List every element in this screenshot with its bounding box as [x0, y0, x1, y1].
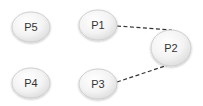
edge-p1-p2: [117, 26, 172, 30]
node-p1: P1: [79, 10, 117, 40]
node-p5: P5: [12, 12, 50, 42]
node-p2: P2: [151, 30, 191, 66]
node-label: P3: [91, 78, 104, 90]
network-diagram: P5P1P2P4P3: [0, 0, 203, 106]
node-label: P2: [164, 42, 177, 54]
node-p4: P4: [12, 68, 50, 98]
edge-p3-p2: [117, 64, 171, 82]
node-label: P5: [24, 21, 37, 33]
node-p3: P3: [79, 69, 117, 99]
node-label: P1: [91, 19, 104, 31]
node-label: P4: [24, 77, 37, 89]
nodes-layer: P5P1P2P4P3: [12, 10, 191, 99]
